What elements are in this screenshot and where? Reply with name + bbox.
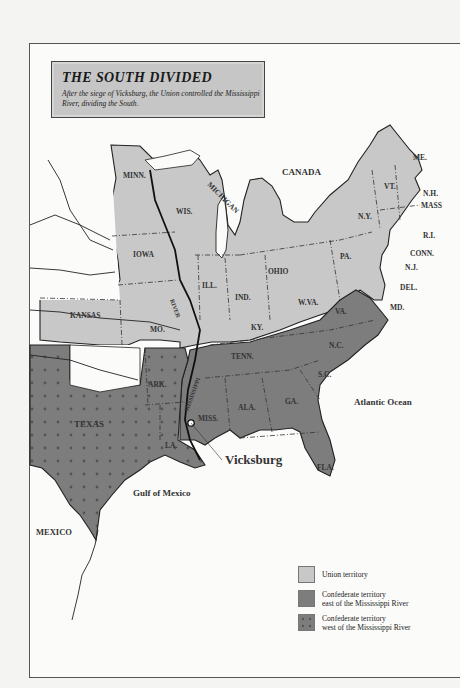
state-ill: ILL. bbox=[202, 281, 217, 290]
legend-label-line2: west of the Mississippi River bbox=[322, 623, 411, 632]
map-subtitle: After the siege of Vicksburg, the Union … bbox=[62, 89, 262, 109]
indian-territory-cutout bbox=[70, 345, 140, 392]
state-pa: PA. bbox=[340, 252, 351, 261]
label-atlantic: Atlantic Ocean bbox=[354, 397, 412, 407]
swatch-confederate-east bbox=[298, 590, 315, 607]
state-wva: W.VA. bbox=[298, 298, 319, 307]
state-kansas: KANSAS bbox=[70, 311, 100, 320]
state-minn: MINN. bbox=[123, 171, 146, 180]
legend-label: Confederate territory bbox=[322, 614, 386, 623]
state-nj: N.J. bbox=[405, 263, 418, 272]
state-la: LA. bbox=[165, 441, 177, 450]
legend-label: Union territory bbox=[322, 570, 368, 579]
state-iowa: IOWA bbox=[133, 250, 154, 259]
state-mo: MO. bbox=[150, 325, 165, 334]
state-conn: CONN. bbox=[410, 249, 434, 258]
state-ind: IND. bbox=[235, 293, 251, 302]
legend-label-line2: east of the Mississippi River bbox=[322, 599, 408, 608]
state-ky: KY. bbox=[251, 323, 264, 332]
state-vt: VT. bbox=[384, 182, 396, 191]
state-md: MD. bbox=[390, 303, 404, 312]
state-fla: FLA. bbox=[317, 463, 334, 472]
state-wis: WIS. bbox=[176, 207, 193, 216]
legend-label: Confederate territory bbox=[322, 590, 386, 599]
rio-grande bbox=[72, 530, 98, 620]
map-title: THE SOUTH DIVIDED bbox=[62, 70, 212, 86]
state-ark: ARK. bbox=[148, 380, 167, 389]
label-canada: CANADA bbox=[282, 167, 321, 177]
state-mass: MASS bbox=[421, 201, 442, 210]
title-box: THE SOUTH DIVIDED After the siege of Vic… bbox=[51, 61, 265, 118]
state-ny: N.Y. bbox=[358, 212, 372, 221]
state-ohio: OHIO bbox=[268, 267, 289, 276]
swatch-confederate-west bbox=[298, 614, 315, 631]
state-nh: N.H. bbox=[423, 189, 438, 198]
state-me: ME. bbox=[413, 153, 427, 162]
label-gulf: Gulf of Mexico bbox=[133, 488, 191, 498]
state-ri: R.I. bbox=[423, 231, 435, 240]
label-vicksburg: Vicksburg bbox=[225, 452, 283, 467]
western-territories bbox=[30, 170, 120, 300]
state-texas: TEXAS bbox=[74, 419, 104, 429]
state-tenn: TENN. bbox=[231, 352, 254, 361]
state-ala: ALA. bbox=[238, 403, 256, 412]
state-miss: MISS. bbox=[198, 414, 218, 423]
state-ga: GA. bbox=[285, 397, 298, 406]
label-mexico: MEXICO bbox=[36, 527, 72, 537]
state-va: VA. bbox=[335, 307, 347, 316]
state-nc: N.C. bbox=[329, 341, 344, 350]
state-sc: S.C. bbox=[318, 370, 331, 379]
state-del: DEL. bbox=[400, 283, 417, 292]
swatch-union bbox=[298, 566, 315, 583]
